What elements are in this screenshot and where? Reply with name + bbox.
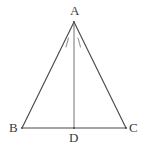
vertex-label-a: A	[70, 4, 79, 17]
vertex-label-b: B	[9, 121, 18, 134]
segment-ac	[74, 22, 126, 128]
angle-bad-mark-icon	[66, 38, 69, 47]
vertex-point-c	[125, 127, 127, 129]
vertex-point-b	[21, 127, 23, 129]
angle-dac-mark-icon	[78, 38, 81, 47]
vertex-label-c: C	[129, 121, 138, 134]
geometry-figure: A B C D	[0, 0, 149, 158]
vertex-point-d	[73, 127, 75, 129]
segment-ab	[22, 22, 74, 128]
vertex-label-d: D	[69, 131, 78, 144]
vertex-point-a	[73, 21, 75, 23]
